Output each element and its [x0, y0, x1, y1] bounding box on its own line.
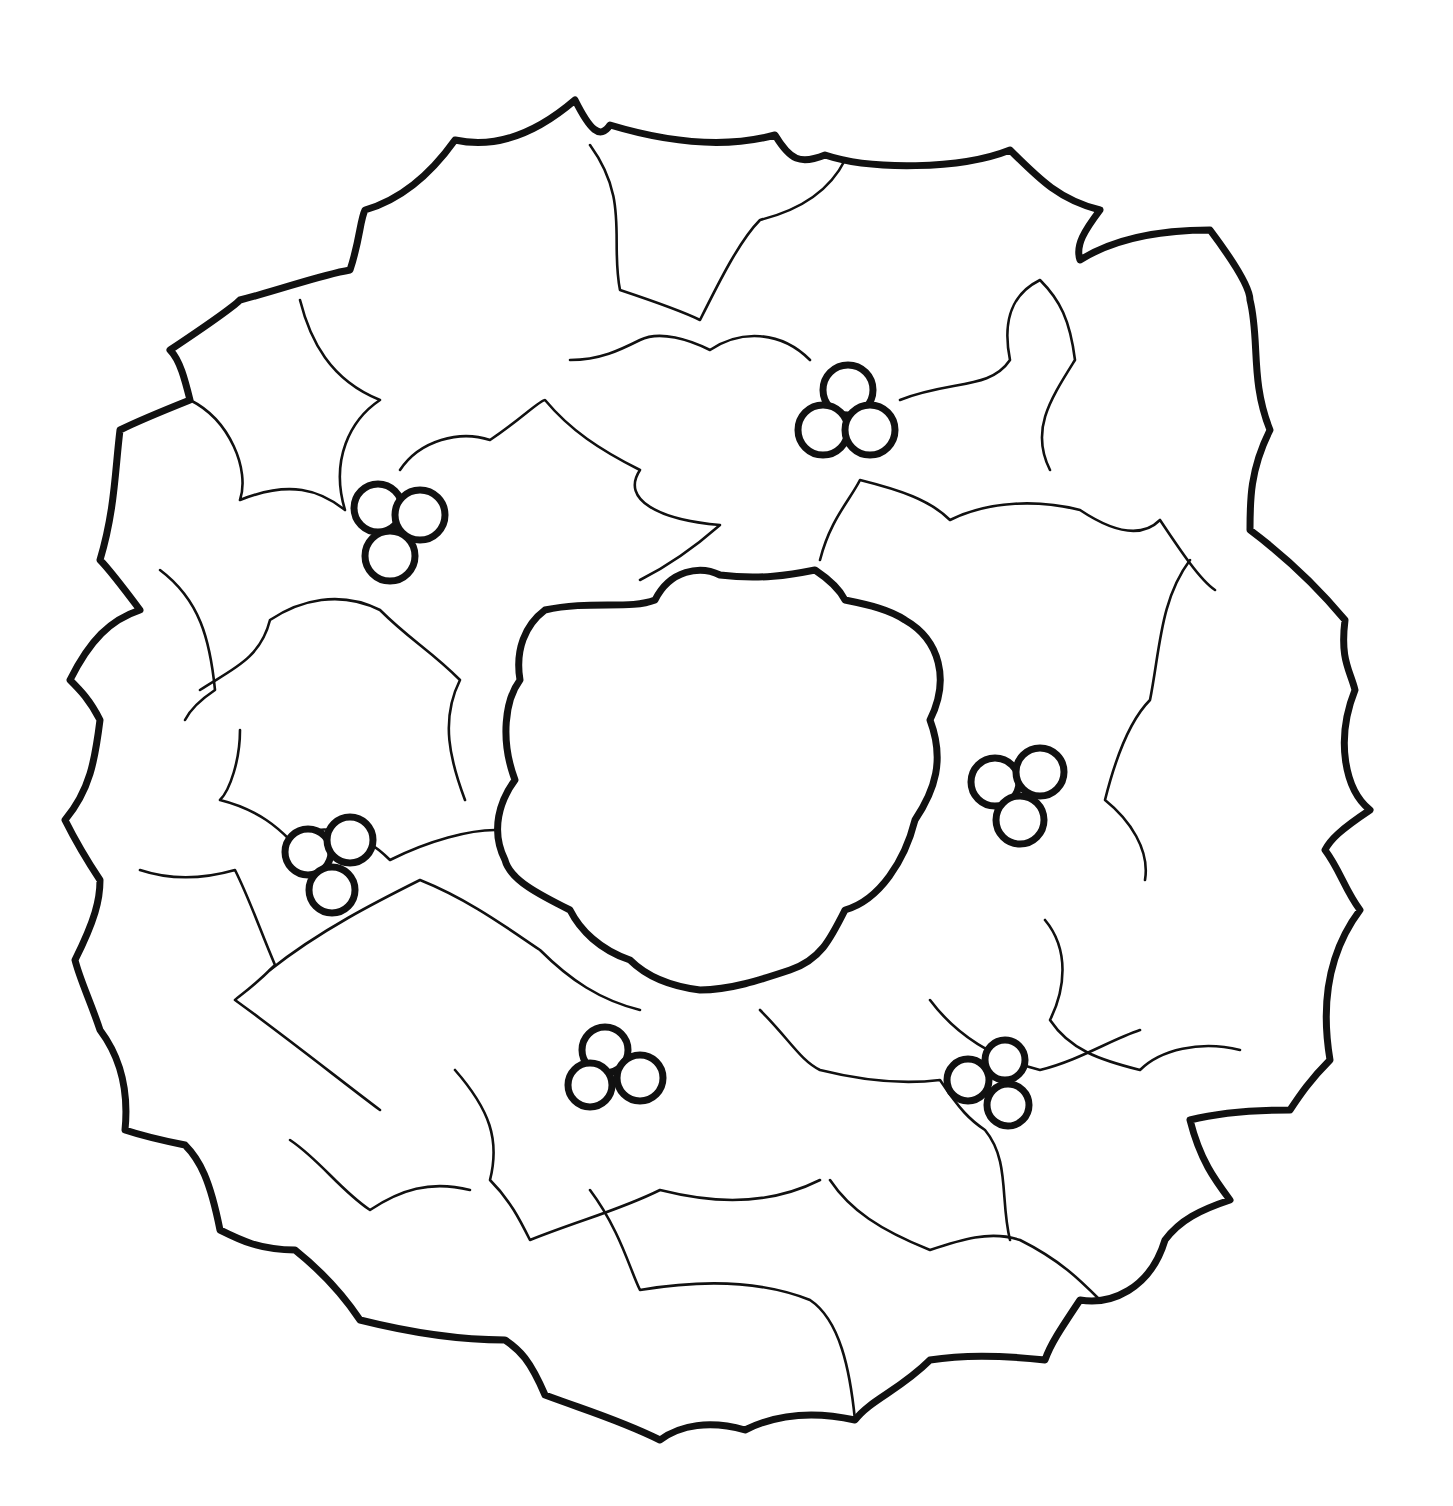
- berry-cluster-upper-left: [354, 484, 445, 581]
- holly-leaf: [400, 400, 720, 580]
- berry-cluster-bottom-right: [947, 1040, 1029, 1126]
- holly-leaves: [140, 145, 1240, 1420]
- berry-cluster-left: [285, 817, 373, 913]
- holly-leaf: [200, 599, 465, 800]
- holly-leaf: [1105, 560, 1190, 880]
- holly-leaf: [570, 336, 810, 360]
- holly-leaf: [830, 1180, 1100, 1300]
- wreath-outer-outline: [65, 100, 1370, 1440]
- holly-leaf: [820, 480, 1215, 590]
- holly-leaf: [590, 1190, 855, 1420]
- berry-cluster-right: [971, 748, 1064, 844]
- holly-leaf: [900, 280, 1075, 470]
- holly-wreath-drawing: [0, 0, 1453, 1506]
- holly-leaf: [590, 145, 845, 320]
- holly-leaf: [760, 1010, 1010, 1240]
- berry-cluster-bottom-center: [568, 1027, 663, 1107]
- holly-leaf: [290, 1140, 470, 1210]
- holly-leaf: [190, 300, 380, 510]
- berry-cluster-top-right: [798, 365, 895, 455]
- holly-leaf: [1045, 920, 1240, 1070]
- holly-leaf: [160, 570, 215, 720]
- wreath-inner-outline: [498, 570, 941, 990]
